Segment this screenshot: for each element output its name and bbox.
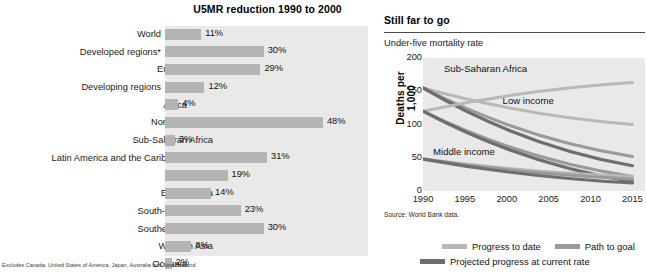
line-chart-legend: Progress to datePath to goalProjected pr… xyxy=(420,239,647,273)
bar-track xyxy=(165,223,264,234)
x-axis-tick-label: 2015 xyxy=(612,194,647,204)
source-note: Source: World Bank data. xyxy=(384,211,459,218)
bar-row: Asia19% xyxy=(0,168,374,186)
bar-row: Developed regions*30% xyxy=(0,44,374,62)
bar-chart-title: U5MR reduction 1990 to 2000 xyxy=(165,3,370,15)
bar-value-label: 3% xyxy=(179,132,192,146)
line-chart-subtitle: Under-five mortality rate xyxy=(384,38,483,48)
y-axis-tick-label: 100 xyxy=(388,119,422,129)
bar-row: South-central Asia23% xyxy=(0,203,374,221)
legend-row: Projected progress at current rate xyxy=(420,254,647,269)
bar-value-label: 11% xyxy=(205,26,223,40)
bar-fill xyxy=(165,188,211,199)
bar-row: Western Asia8% xyxy=(0,238,374,256)
bar-fill xyxy=(165,99,178,110)
x-axis-tick-label: 2005 xyxy=(529,194,569,204)
bar-fill xyxy=(165,241,191,252)
bar-value-label: 4% xyxy=(182,96,195,110)
bar-value-label: 30% xyxy=(268,43,287,57)
bar-row: Sub-Saharan Africa3% xyxy=(0,132,374,150)
legend-label: Path to goal xyxy=(585,241,635,252)
legend-item[interactable]: Projected progress at current rate xyxy=(420,256,590,267)
bar-track xyxy=(165,205,241,216)
bar-fill xyxy=(165,170,228,181)
bar-row: Southeastern Asia30% xyxy=(0,221,374,239)
legend-label: Projected progress at current rate xyxy=(450,256,590,267)
bar-fill xyxy=(165,29,201,40)
bar-category-label: Developing regions xyxy=(81,80,161,94)
bar-row: Eastern Asia14% xyxy=(0,185,374,203)
bar-fill xyxy=(165,117,323,128)
bar-fill xyxy=(165,135,175,146)
line-chart-panel: Still far to go Under-five mortality rat… xyxy=(382,0,647,273)
bar-category-label: Developed regions* xyxy=(80,45,161,59)
bar-row: Developing regions12% xyxy=(0,79,374,97)
y-axis-tick-label: 50 xyxy=(388,152,422,162)
bar-track xyxy=(165,46,264,57)
bar-value-label: 19% xyxy=(232,167,251,181)
bar-value-label: 31% xyxy=(271,149,290,163)
legend-item[interactable]: Progress to date xyxy=(442,241,541,252)
bar-row: Northern Africa48% xyxy=(0,114,374,132)
y-axis-tick-label: 150 xyxy=(388,85,422,95)
bar-fill xyxy=(165,82,204,93)
bar-track xyxy=(165,117,323,128)
bar-track xyxy=(165,29,201,40)
x-axis-tick-label: 1990 xyxy=(403,194,443,204)
series-annotation-label: Middle income xyxy=(433,146,495,157)
bar-fill xyxy=(165,64,260,75)
y-axis-tick-label: 200 xyxy=(388,52,422,62)
series-annotation-label: Sub-Saharan Africa xyxy=(444,63,527,74)
x-axis-tick-label: 2000 xyxy=(487,194,527,204)
bar-value-label: 12% xyxy=(208,79,227,93)
bar-value-label: 48% xyxy=(327,114,346,128)
bar-chart-footnote: Excludes Canada, United States of Americ… xyxy=(2,262,197,268)
legend-label: Progress to date xyxy=(472,241,541,252)
infographic-root: U5MR reduction 1990 to 2000 World11%Deve… xyxy=(0,0,647,273)
bar-track xyxy=(165,64,260,75)
bar-track xyxy=(165,241,191,252)
legend-swatch-icon xyxy=(442,244,467,249)
bar-value-label: 23% xyxy=(245,202,264,216)
legend-swatch-icon xyxy=(555,244,580,249)
bar-fill xyxy=(165,152,267,163)
bar-fill xyxy=(165,205,241,216)
bar-row: Latin America and the Caribbean31% xyxy=(0,150,374,168)
bar-category-label: World xyxy=(137,27,161,41)
bar-value-label: 29% xyxy=(264,61,283,75)
bar-track xyxy=(165,135,175,146)
bar-value-label: 30% xyxy=(268,220,287,234)
legend-swatch-icon xyxy=(420,259,445,264)
bar-track xyxy=(165,152,267,163)
line-chart-series-svg xyxy=(423,58,645,191)
series-annotation-label: Low income xyxy=(503,95,554,106)
legend-row: Progress to datePath to goal xyxy=(420,239,647,254)
line-chart-title: Still far to go xyxy=(384,14,450,26)
x-axis-tick-label: 2010 xyxy=(571,194,611,204)
bar-value-label: 14% xyxy=(215,185,234,199)
x-axis-tick-label: 1995 xyxy=(445,194,485,204)
legend-item[interactable]: Path to goal xyxy=(555,241,635,252)
bar-track xyxy=(165,82,204,93)
title-divider xyxy=(384,32,645,33)
bar-chart-panel: U5MR reduction 1990 to 2000 World11%Deve… xyxy=(0,0,374,273)
bar-chart-rows: World11%Developed regions*30%Europe29%De… xyxy=(0,26,374,256)
bar-track xyxy=(165,99,178,110)
bar-fill xyxy=(165,46,264,57)
bar-row: World11% xyxy=(0,26,374,44)
bar-fill xyxy=(165,223,264,234)
bar-track xyxy=(165,188,211,199)
bar-row: Africa4% xyxy=(0,97,374,115)
bar-value-label: 8% xyxy=(195,238,208,252)
bar-track xyxy=(165,170,228,181)
bar-row: Europe29% xyxy=(0,61,374,79)
